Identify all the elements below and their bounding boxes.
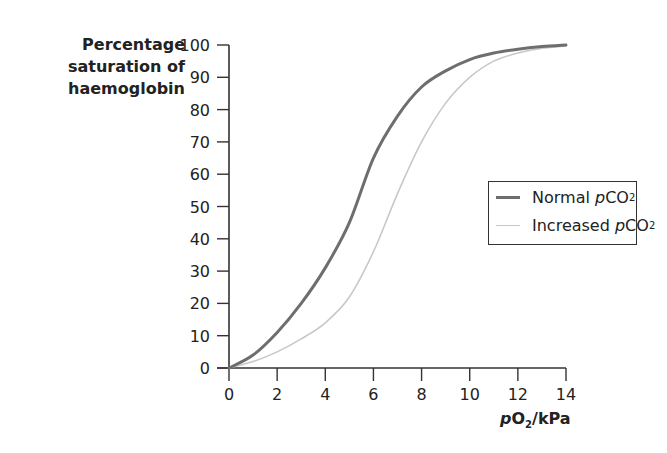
y-tick-label: 30 [190,262,210,281]
x-axis-label-unit: /kPa [532,409,571,428]
legend-item-normal: Normal pCO2 [496,188,635,207]
x-axis-label-o: O [511,409,525,428]
y-tick-label: 10 [190,327,210,346]
legend-swatch-increased [496,225,520,226]
y-tick-label: 70 [190,133,210,152]
legend-label-normal-co: CO [605,188,629,207]
y-tick-label: 50 [190,198,210,217]
y-tick-label: 80 [190,101,210,120]
legend-label-normal: Normal [532,188,595,207]
x-axis-label-p: p [500,409,511,428]
x-tick-label: 8 [416,385,426,404]
x-tick-label: 10 [460,385,480,404]
x-tick-label: 12 [508,385,528,404]
y-tick-label: 20 [190,294,210,313]
y-tick-label: 40 [190,230,210,249]
y-tick-label: 0 [200,359,210,378]
x-tick-label: 0 [224,385,234,404]
x-tick-label: 4 [320,385,330,404]
x-axis-ticks: 02468101214 [224,368,576,404]
x-tick-label: 14 [556,385,576,404]
legend: Normal pCO2 Increased pCO2 [488,181,637,245]
legend-swatch-normal [496,196,520,199]
y-axis-ticks: 0102030405060708090100 [179,36,229,378]
x-axis-label-subscript: 2 [525,419,532,430]
legend-label-increased-p: p [615,216,625,235]
x-tick-label: 6 [368,385,378,404]
x-tick-label: 2 [272,385,282,404]
y-axis-label: Percentage saturation of haemoglobin [68,34,185,100]
legend-label-normal-sub: 2 [629,192,635,203]
legend-label-increased-sub: 2 [649,220,655,231]
y-axis-label-line-2: saturation of [68,56,185,78]
x-axis-label: pO2/kPa [500,409,571,430]
legend-label-increased-co: CO [625,216,649,235]
legend-item-increased: Increased pCO2 [496,216,655,235]
legend-label-increased: Increased [532,216,615,235]
y-tick-label: 60 [190,165,210,184]
y-axis-label-line-1: Percentage [68,34,185,56]
y-axis-label-line-3: haemoglobin [68,78,185,100]
y-tick-label: 90 [190,68,210,87]
legend-label-normal-p: p [595,188,605,207]
